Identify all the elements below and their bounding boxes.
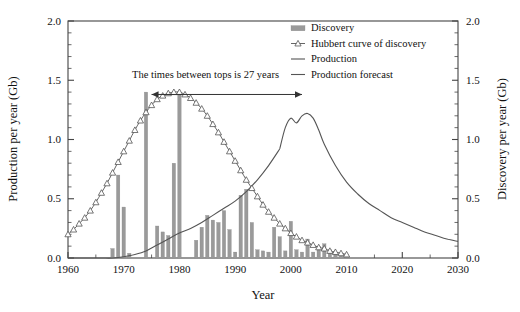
y-tick-label-left: 1.5: [47, 74, 61, 86]
legend-label: Hubbert curve of discovery: [311, 38, 427, 49]
discovery-bar: [239, 195, 242, 258]
discovery-bar: [222, 211, 225, 258]
hubbert-marker-triangle: [187, 95, 193, 101]
hubbert-marker-triangle: [293, 234, 299, 240]
legend-item[interactable]: Production forecast: [291, 69, 393, 80]
legend-swatch-bar: [291, 26, 305, 31]
hubbert-marker-triangle: [243, 177, 249, 183]
x-tick-label: 1980: [168, 263, 191, 275]
discovery-bar: [144, 92, 147, 258]
chart-figure: 0.00.51.01.52.0 0.00.51.01.52.0 19601970…: [0, 0, 520, 312]
production-forecast-line: [280, 113, 458, 241]
annotation-text: The times between tops is 27 years: [132, 69, 279, 80]
x-tick-label: 1970: [113, 263, 136, 275]
hubbert-marker-triangle: [299, 237, 305, 243]
discovery-bar: [116, 175, 119, 258]
legend-label: Production: [311, 53, 358, 64]
hubbert-marker-triangle: [327, 248, 333, 254]
hubbert-marker-triangle: [221, 139, 227, 145]
hubbert-marker-triangle: [115, 159, 121, 165]
discovery-bar: [295, 250, 298, 258]
x-tick-label: 2010: [336, 263, 359, 275]
x-tick-label: 2030: [447, 263, 470, 275]
hubbert-marker-triangle: [260, 202, 266, 208]
discovery-bar: [122, 207, 125, 258]
hubbert-marker-triangle: [109, 170, 115, 176]
y-tick-label-left: 0.0: [47, 252, 61, 264]
discovery-bar: [250, 222, 253, 258]
y-axis-right-ticks: 0.00.51.01.52.0: [452, 15, 480, 264]
y-tick-label-right: 0.5: [466, 192, 480, 204]
hubbert-marker-triangle: [104, 180, 110, 186]
chart-legend: DiscoveryHubbert curve of discoveryProdu…: [291, 22, 427, 80]
hubbert-discovery-production-chart: 0.00.51.01.52.0 0.00.51.01.52.0 19601970…: [0, 0, 520, 312]
x-tick-label: 1960: [57, 263, 80, 275]
legend-label: Discovery: [311, 22, 355, 33]
legend-item[interactable]: Hubbert curve of discovery: [291, 38, 427, 49]
hubbert-marker-triangle: [232, 158, 238, 164]
discovery-bar: [261, 251, 264, 258]
y-tick-label-left: 2.0: [47, 15, 61, 27]
hubbert-marker-triangle: [126, 138, 132, 144]
hubbert-marker-triangle: [304, 240, 310, 246]
discovery-bar: [233, 252, 236, 258]
hubbert-marker-triangle: [121, 148, 127, 154]
discovery-bar: [161, 232, 164, 258]
discovery-bar: [155, 226, 158, 258]
y-axis-left-title: Production per year (Gb): [6, 76, 20, 201]
hubbert-marker-triangle: [226, 148, 232, 154]
discovery-bar: [172, 163, 175, 258]
discovery-bar: [267, 252, 270, 258]
discovery-bar: [211, 220, 214, 258]
hubbert-marker-triangle: [160, 93, 166, 99]
y-tick-label-right: 0.0: [466, 252, 480, 264]
discovery-bar: [228, 230, 231, 258]
legend-item[interactable]: Discovery: [291, 22, 355, 33]
discovery-bar: [206, 215, 209, 258]
hubbert-marker-triangle: [137, 117, 143, 123]
hubbert-marker-triangle: [210, 121, 216, 127]
hubbert-marker-triangle: [238, 167, 244, 173]
annotation-group: The times between tops is 27 years: [132, 69, 302, 98]
plot-frame: [68, 21, 458, 258]
discovery-bar: [311, 252, 314, 258]
x-tick-label: 2000: [280, 263, 303, 275]
discovery-bar: [256, 250, 259, 258]
plot-border: [68, 21, 458, 258]
y-tick-label-right: 1.0: [466, 133, 480, 145]
y-tick-label-left: 0.5: [47, 192, 61, 204]
discovery-bar: [300, 252, 303, 258]
discovery-bar: [245, 189, 248, 258]
discovery-bar: [194, 240, 197, 258]
discovery-bar: [272, 227, 275, 258]
y-axis-left-ticks: 0.00.51.01.52.0: [47, 15, 74, 264]
legend-item[interactable]: Production: [291, 53, 358, 64]
y-tick-label-left: 1.0: [47, 133, 61, 145]
hubbert-marker-triangle: [215, 129, 221, 135]
hubbert-marker-triangle: [98, 190, 104, 196]
y-tick-label-right: 2.0: [466, 15, 480, 27]
y-axis-right-title: Discovery per year (Gb): [495, 78, 509, 200]
discovery-bar: [217, 222, 220, 258]
legend-label: Production forecast: [311, 69, 393, 80]
discovery-bar: [111, 249, 114, 258]
hubbert-marker-triangle: [132, 127, 138, 133]
discovery-bar: [289, 221, 292, 258]
x-tick-label: 1990: [224, 263, 247, 275]
hubbert-marker-triangle: [87, 208, 93, 214]
hubbert-marker-triangle: [316, 244, 322, 250]
discovery-bar: [284, 251, 287, 258]
hubbert-marker-triangle: [93, 199, 99, 205]
discovery-bar: [200, 227, 203, 258]
x-tick-label: 2020: [391, 263, 414, 275]
x-axis-title: Year: [251, 288, 275, 302]
y-tick-label-right: 1.5: [466, 74, 480, 86]
discovery-bar: [278, 237, 281, 258]
hubbert-marker-triangle: [310, 242, 316, 248]
hubbert-marker-triangle: [254, 193, 260, 199]
